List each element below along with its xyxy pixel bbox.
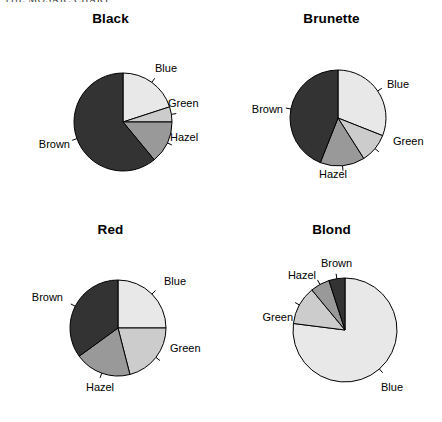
pie-label-hazel: Hazel (86, 381, 114, 393)
pie-label-green: Green (262, 311, 293, 323)
pie-label-blue: Blue (164, 275, 186, 287)
pie-label-blue: Blue (387, 78, 409, 90)
chart-panel-brunette: Brunette BlueGreenHazelBrown (221, 0, 442, 211)
leader-line-green (295, 303, 299, 305)
leader-line-blue (379, 369, 382, 373)
leader-line-hazel (100, 373, 102, 378)
pie-label-green: Green (170, 342, 201, 354)
leader-line-green (375, 149, 379, 152)
pie-label-hazel: Hazel (170, 131, 198, 143)
leader-line-hazel (318, 280, 320, 284)
pie-chart-brunette: BlueGreenHazelBrown (221, 0, 442, 211)
chart-panel-blond: Blond BlueGreenHazelBrown (221, 211, 442, 422)
pie-chart-grid: Black BlueGreenHazelBrown Brunette BlueG… (0, 0, 442, 422)
leader-line-green (156, 357, 160, 360)
chart-panel-black: Black BlueGreenHazelBrown (0, 0, 221, 211)
pie-label-hazel: Hazel (319, 168, 347, 180)
leader-line-blue (378, 88, 382, 91)
pie-label-brown: Brown (32, 291, 63, 303)
leader-line-hazel (167, 143, 172, 145)
leader-line-blue (152, 78, 155, 82)
leader-line-brown (71, 304, 75, 306)
pie-label-hazel: Hazel (288, 269, 316, 281)
leader-line-blue (152, 291, 156, 295)
pie-label-brown: Brown (252, 103, 283, 115)
pie-label-blue: Blue (155, 62, 177, 74)
leader-line-brown (286, 108, 291, 109)
pie-chart-black: BlueGreenHazelBrown (0, 0, 221, 211)
pie-chart-red: BlueGreenHazelBrown (0, 211, 221, 422)
pie-slice-blue (118, 280, 166, 328)
pie-label-brown: Brown (321, 257, 352, 269)
leader-line-brown (72, 139, 77, 141)
pie-label-green: Green (168, 97, 199, 109)
pie-chart-blond: BlueGreenHazelBrown (221, 211, 442, 422)
leader-line-green (171, 114, 176, 115)
pie-label-blue: Blue (381, 381, 403, 393)
pie-label-brown: Brown (39, 138, 70, 150)
chart-panel-red: Red BlueGreenHazelBrown (0, 211, 221, 422)
pie-label-green: Green (393, 135, 424, 147)
leader-line-brown (336, 274, 337, 279)
